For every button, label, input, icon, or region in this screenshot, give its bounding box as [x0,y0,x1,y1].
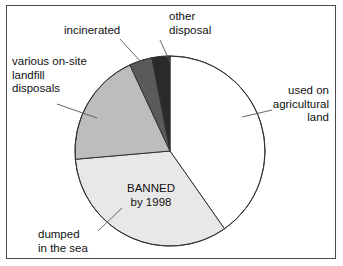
pie-label-other-disposal: other disposal [169,10,211,37]
pie-label-landfill: various on-site landfill disposals [12,55,87,96]
pie-chart-figure: incinerated other disposal various on-si… [0,0,343,266]
pie-label-dumped: dumped in the sea [38,228,88,255]
pie-label-agricultural: used on agricultural land [273,84,329,125]
pie-annotation-banned: BANNED by 1998 [110,182,192,209]
pie-label-incinerated: incinerated [64,24,120,38]
pie-chart-canvas [0,0,343,266]
